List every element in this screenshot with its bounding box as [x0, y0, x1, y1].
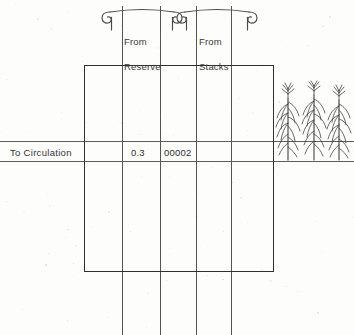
corn-plants-illustration [276, 82, 354, 162]
corn-plant-3 [327, 85, 351, 160]
bracket-label-line2: Reserve [124, 61, 161, 72]
row-label-to-circulation: To Circulation [10, 147, 72, 158]
cell-value-from-stacks: 00002 [164, 147, 191, 158]
bracket-label-line2: Stacks [199, 61, 229, 72]
bracket-from-stacks [0, 0, 354, 40]
table-border [84, 65, 274, 272]
corn-plant-1 [276, 83, 300, 160]
bracket-label-line1: From [199, 36, 222, 47]
document-page: From Reserve From Stacks To Circulation … [0, 0, 354, 335]
cell-value-from-reserve: 0.3 [131, 147, 145, 158]
bracket-label-from-reserve: From Reserve [124, 23, 170, 73]
corn-plant-2 [302, 81, 326, 160]
bracket-label-from-stacks: From Stacks [199, 23, 245, 73]
bracket-label-line1: From [124, 36, 147, 47]
